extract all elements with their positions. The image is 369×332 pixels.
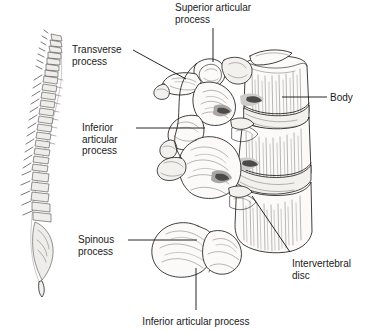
- anatomy-figure: Superior articular process Transverse pr…: [0, 0, 369, 332]
- label-body: Body: [330, 92, 353, 104]
- label-inferior-articular-process: Inferior articular process: [82, 122, 118, 157]
- lumbar-vertebrae-detail: [152, 50, 312, 277]
- label-transverse-process: Transverse process: [72, 44, 122, 67]
- inferior-articular-process-bottom: [203, 230, 242, 274]
- vertebral-column-lateral: [21, 30, 63, 297]
- label-inferior-articular-process-bottom: Inferior articular process: [126, 316, 266, 328]
- label-intervertebral-disc: Intervertebral disc: [292, 258, 351, 281]
- leader-transverse-process: [133, 50, 186, 79]
- label-superior-articular-process: Superior articular process: [175, 2, 251, 25]
- label-spinous-process: Spinous process: [78, 234, 114, 257]
- figure-canvas: [0, 0, 369, 332]
